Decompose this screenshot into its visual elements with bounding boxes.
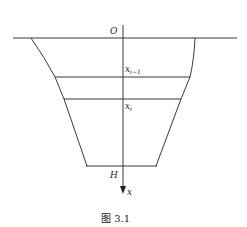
vessel-diagram: O xi−1 xi H x 图 3.1	[0, 0, 247, 227]
depth-label: H	[109, 170, 118, 180]
axis-arrow-icon	[120, 186, 126, 194]
origin-label: O	[110, 26, 118, 36]
left-wall	[31, 38, 87, 166]
figure-caption: 图 3.1	[101, 213, 130, 224]
x-i-minus-1-label: xi−1	[125, 64, 141, 75]
right-wall	[156, 38, 195, 166]
axis-label: x	[127, 187, 132, 197]
x-i-label: xi	[125, 101, 132, 112]
